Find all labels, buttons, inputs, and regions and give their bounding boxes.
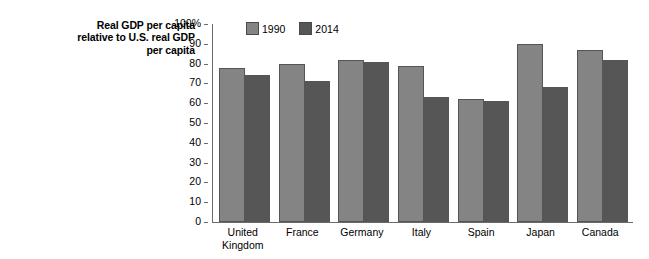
y-tick-mark (204, 44, 208, 45)
bar-2014 (483, 101, 509, 222)
y-tick-label: 0 (195, 215, 201, 227)
bar-group (517, 24, 568, 222)
y-tick-label: 20 (189, 175, 201, 187)
y-tick-label: 30 (189, 156, 201, 168)
y-tick-mark (204, 222, 208, 223)
bar-1990 (517, 44, 543, 222)
y-tick-mark (204, 103, 208, 104)
bar-group (577, 24, 628, 222)
category-label-line-2: Kingdom (203, 239, 283, 252)
y-tick-mark (204, 202, 208, 203)
bar-chart: Real GDP per capita relative to U.S. rea… (0, 0, 649, 259)
x-axis-line (212, 222, 633, 223)
plot-area: 100%9080706050403020100 (213, 24, 630, 222)
bar-2014 (542, 87, 568, 222)
bar-group (458, 24, 509, 222)
bar-groups (213, 24, 630, 222)
bar-group (219, 24, 270, 222)
y-tick-mark (204, 83, 208, 84)
bar-1990 (338, 60, 364, 222)
y-tick-mark (204, 143, 208, 144)
y-tick-label: 60 (189, 96, 201, 108)
bar-2014 (363, 62, 389, 222)
x-axis-category-labels: UnitedKingdomFranceGermanyItalySpainJapa… (213, 226, 630, 258)
bar-1990 (398, 66, 424, 222)
bar-1990 (577, 50, 603, 222)
bar-group (398, 24, 449, 222)
y-tick-label: 90 (189, 37, 201, 49)
category-label-line-1: Canada (560, 226, 640, 239)
y-tick-label: 10 (189, 195, 201, 207)
y-tick-label: 50 (189, 116, 201, 128)
bar-group (279, 24, 330, 222)
y-tick-mark (204, 64, 208, 65)
y-tick-mark (204, 123, 208, 124)
y-tick-label: 40 (189, 136, 201, 148)
bar-2014 (304, 81, 330, 222)
y-tick-label: 70 (189, 76, 201, 88)
bar-group (338, 24, 389, 222)
y-tick-mark (204, 163, 208, 164)
category-label: Canada (560, 226, 640, 239)
y-tick-label: 80 (189, 57, 201, 69)
bar-2014 (244, 75, 270, 222)
y-tick-mark (204, 24, 208, 25)
bar-1990 (279, 64, 305, 222)
bar-2014 (423, 97, 449, 222)
bar-1990 (219, 68, 245, 222)
bar-1990 (458, 99, 484, 222)
bar-2014 (602, 60, 628, 222)
y-tick-label: 100% (174, 17, 201, 29)
y-axis-title-line-2: relative to U.S. real GDP (55, 31, 195, 43)
y-axis-title-line-3: per capita (55, 44, 195, 56)
y-tick-mark (204, 182, 208, 183)
